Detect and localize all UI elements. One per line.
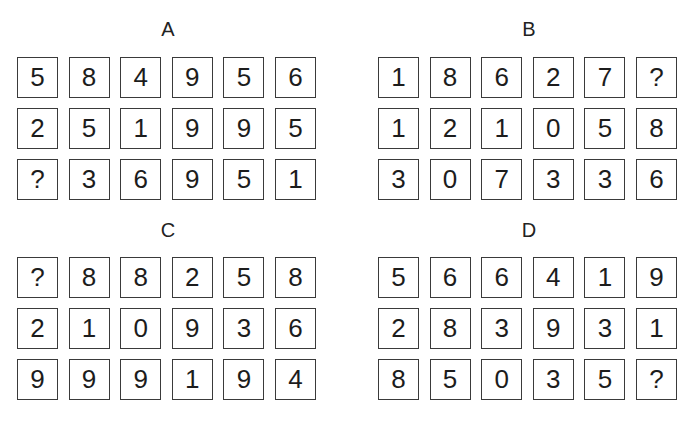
number-cell: 3 <box>584 159 625 200</box>
number-cell: 1 <box>69 308 110 349</box>
number-cell: 6 <box>275 308 316 349</box>
number-cell: 3 <box>481 308 522 349</box>
number-cell: 1 <box>636 308 677 349</box>
number-cell: 5 <box>275 108 316 149</box>
number-cell: 3 <box>223 308 264 349</box>
number-cell: 5 <box>584 108 625 149</box>
number-cell: 5 <box>584 359 625 400</box>
number-cell: 6 <box>430 257 471 298</box>
number-cell: 2 <box>17 108 58 149</box>
number-cell: 2 <box>378 308 419 349</box>
number-cell: 4 <box>533 257 574 298</box>
number-cell: 8 <box>430 308 471 349</box>
number-cell: 6 <box>481 57 522 98</box>
number-cell: 3 <box>533 359 574 400</box>
number-cell: ? <box>17 257 58 298</box>
number-cell: 2 <box>430 108 471 149</box>
number-cell: 5 <box>223 257 264 298</box>
number-cell: 6 <box>636 159 677 200</box>
number-cell: 2 <box>172 257 213 298</box>
number-cell: 3 <box>378 159 419 200</box>
panel-title: A <box>8 19 328 39</box>
number-cell: 5 <box>69 108 110 149</box>
number-cell: 1 <box>378 108 419 149</box>
number-cell: 5 <box>430 359 471 400</box>
number-cell: 9 <box>172 159 213 200</box>
number-cell: 9 <box>172 308 213 349</box>
number-cell: 8 <box>120 257 161 298</box>
number-cell: 9 <box>223 108 264 149</box>
number-cell: 5 <box>378 257 419 298</box>
number-cell: 5 <box>223 159 264 200</box>
number-cell: 6 <box>481 257 522 298</box>
number-cell: 0 <box>481 359 522 400</box>
number-cell: 1 <box>378 57 419 98</box>
number-cell: 8 <box>69 257 110 298</box>
number-cell: 9 <box>69 359 110 400</box>
number-cell: 3 <box>69 159 110 200</box>
number-cell: 0 <box>120 308 161 349</box>
panel-title: B <box>369 19 688 39</box>
number-cell: ? <box>636 57 677 98</box>
number-cell: 8 <box>430 57 471 98</box>
number-cell: ? <box>17 159 58 200</box>
number-cell: 6 <box>120 159 161 200</box>
number-cell: 2 <box>17 308 58 349</box>
number-cell: 4 <box>120 57 161 98</box>
number-cell: 5 <box>223 57 264 98</box>
number-cell: 1 <box>120 108 161 149</box>
number-cell: 3 <box>533 159 574 200</box>
number-cell: 5 <box>17 57 58 98</box>
number-cell: 9 <box>533 308 574 349</box>
number-cell: 0 <box>533 108 574 149</box>
number-cell: 8 <box>378 359 419 400</box>
panel-title: D <box>369 220 688 240</box>
number-cell: 1 <box>481 108 522 149</box>
number-cell: 8 <box>636 108 677 149</box>
number-cell: 1 <box>275 159 316 200</box>
number-cell: 9 <box>636 257 677 298</box>
number-cell: 4 <box>275 359 316 400</box>
number-cell: 9 <box>120 359 161 400</box>
number-cell: ? <box>636 359 677 400</box>
panel-title: C <box>8 220 328 240</box>
number-cell: 6 <box>275 57 316 98</box>
number-cell: 9 <box>223 359 264 400</box>
number-cell: 2 <box>533 57 574 98</box>
number-cell: 3 <box>584 308 625 349</box>
number-cell: 8 <box>69 57 110 98</box>
number-cell: 7 <box>584 57 625 98</box>
number-cell: 9 <box>17 359 58 400</box>
number-cell: 8 <box>275 257 316 298</box>
number-cell: 1 <box>584 257 625 298</box>
number-cell: 7 <box>481 159 522 200</box>
number-cell: 9 <box>172 108 213 149</box>
number-cell: 0 <box>430 159 471 200</box>
number-cell: 1 <box>172 359 213 400</box>
number-cell: 9 <box>172 57 213 98</box>
